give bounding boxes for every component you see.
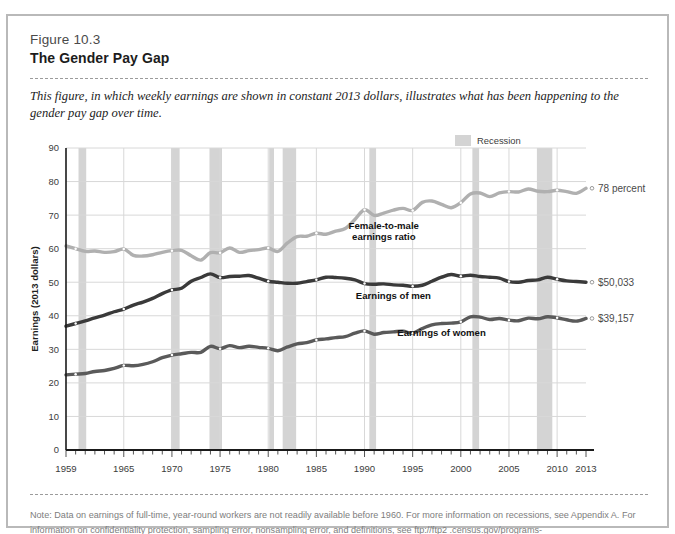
series-marker bbox=[315, 339, 318, 342]
series-marker bbox=[171, 249, 174, 252]
y-tick-90: 90 bbox=[49, 142, 59, 153]
chart-legend: Recession bbox=[455, 135, 521, 146]
series-marker bbox=[460, 275, 463, 278]
series-marker bbox=[411, 285, 414, 288]
x-tick-label-1990: 1990 bbox=[354, 463, 375, 474]
series-marker bbox=[123, 364, 126, 367]
figure-card: Figure 10.3 The Gender Pay Gap This figu… bbox=[6, 14, 669, 528]
series-marker bbox=[123, 308, 126, 311]
y-tick-80: 80 bbox=[49, 176, 59, 187]
series-marker bbox=[171, 354, 174, 357]
y-axis-title: Earnings (2013 dollars) bbox=[29, 246, 40, 352]
men-series-label: Earnings of men bbox=[356, 290, 431, 301]
x-tick-label-2013: 2013 bbox=[575, 463, 596, 474]
x-axis-tick-labels: 1959196519701975198019851990199520002005… bbox=[55, 463, 596, 474]
series-marker bbox=[508, 280, 511, 283]
series-marker bbox=[363, 208, 366, 211]
gender-pay-gap-chart: 0102030405060708090 19591965197019751980… bbox=[18, 134, 666, 479]
women-end-label-dot bbox=[590, 317, 594, 321]
y-axis-tick-labels: 0102030405060708090 bbox=[49, 142, 59, 455]
series-marker bbox=[556, 317, 559, 320]
x-tick-label-2005: 2005 bbox=[498, 463, 519, 474]
y-tick-60: 60 bbox=[49, 243, 59, 254]
x-tick-label-1975: 1975 bbox=[209, 463, 230, 474]
y-tick-10: 10 bbox=[49, 411, 59, 422]
x-tick-label-1970: 1970 bbox=[161, 463, 182, 474]
x-tick-label-2000: 2000 bbox=[450, 463, 471, 474]
series-line-0 bbox=[66, 188, 586, 260]
figure-note: Note: Data on earnings of full-time, yea… bbox=[30, 508, 650, 534]
recession-band-3 bbox=[269, 148, 274, 450]
series-marker bbox=[411, 209, 414, 212]
series-marker bbox=[267, 347, 270, 350]
women-end-label: $39,157 bbox=[598, 313, 635, 324]
y-tick-40: 40 bbox=[49, 310, 59, 321]
series-marker bbox=[267, 280, 270, 283]
series-marker bbox=[219, 251, 222, 254]
ratio-series-label: earnings ratio bbox=[352, 231, 416, 242]
men-end-label: $50,033 bbox=[598, 277, 635, 288]
x-tick-label-1985: 1985 bbox=[306, 463, 327, 474]
figure-number: Figure 10.3 bbox=[30, 32, 101, 47]
series-line-2 bbox=[66, 316, 586, 374]
x-tick-label-1959: 1959 bbox=[55, 463, 76, 474]
series-marker bbox=[460, 201, 463, 204]
series-marker bbox=[363, 282, 366, 285]
series-marker bbox=[171, 289, 174, 292]
y-tick-70: 70 bbox=[49, 210, 59, 221]
figure-caption: This figure, in which weekly earnings ar… bbox=[30, 88, 646, 123]
series-marker bbox=[219, 347, 222, 350]
series-marker bbox=[508, 190, 511, 193]
legend-recession-label: Recession bbox=[477, 135, 521, 146]
ratio-end-label: 78 percent bbox=[598, 183, 645, 194]
series-end-labels: 78 percent$50,033$39,157 bbox=[590, 183, 645, 324]
y-tick-20: 20 bbox=[49, 377, 59, 388]
x-tick-label-1995: 1995 bbox=[402, 463, 423, 474]
figure-title: The Gender Pay Gap bbox=[30, 50, 170, 66]
divider-bottom bbox=[30, 494, 648, 495]
series-marker bbox=[460, 321, 463, 324]
series-marker bbox=[315, 279, 318, 282]
x-tick-label-1965: 1965 bbox=[113, 463, 134, 474]
series-marker bbox=[363, 330, 366, 333]
series-marker bbox=[74, 247, 77, 250]
y-tick-0: 0 bbox=[54, 444, 59, 455]
recession-band-4 bbox=[283, 148, 296, 450]
series-marker bbox=[267, 247, 270, 250]
men-end-label-dot bbox=[590, 280, 594, 284]
ratio-series-label: Female-to-male bbox=[349, 220, 419, 231]
recession-band-0 bbox=[79, 148, 87, 450]
x-tick-label-2010: 2010 bbox=[546, 463, 567, 474]
series-marker bbox=[123, 248, 126, 251]
series-marker bbox=[315, 232, 318, 235]
series-marker bbox=[74, 322, 77, 325]
series-marker bbox=[556, 189, 559, 192]
divider-top bbox=[30, 78, 648, 79]
women-series-label: Earnings of women bbox=[397, 327, 486, 338]
chart-svg: 0102030405060708090 19591965197019751980… bbox=[18, 134, 666, 479]
y-tick-30: 30 bbox=[49, 344, 59, 355]
series-marker bbox=[556, 278, 559, 281]
ratio-end-label-dot bbox=[590, 186, 594, 190]
y-tick-50: 50 bbox=[49, 277, 59, 288]
x-tick-label-1980: 1980 bbox=[258, 463, 279, 474]
series-marker bbox=[74, 373, 77, 376]
x-axis-ticks bbox=[66, 450, 586, 457]
legend-recession-swatch bbox=[455, 135, 471, 146]
series-marker bbox=[219, 276, 222, 279]
series-marker bbox=[508, 319, 511, 322]
